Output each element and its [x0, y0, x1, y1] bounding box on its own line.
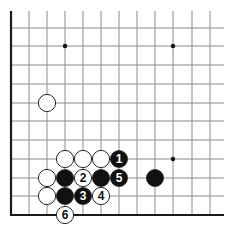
move-number: 6	[62, 208, 69, 222]
star-point-icon	[171, 44, 175, 48]
black-stone: 3	[74, 187, 91, 204]
black-stone	[56, 187, 73, 204]
move-number: 2	[80, 171, 87, 185]
white-stone	[38, 187, 55, 204]
white-stone: 2	[74, 169, 91, 186]
black-stone-icon	[56, 187, 73, 204]
white-stone	[92, 150, 109, 167]
white-stone	[74, 150, 91, 167]
white-stone: 4	[92, 187, 109, 204]
white-stone	[38, 94, 55, 111]
white-stone-icon	[38, 169, 55, 186]
black-stone-icon	[92, 169, 109, 186]
go-board: 125346	[0, 0, 233, 233]
move-number: 5	[116, 171, 123, 185]
white-stone-icon	[56, 150, 73, 167]
black-stone	[92, 169, 109, 186]
white-stone-icon	[92, 150, 109, 167]
white-stone-icon	[74, 150, 91, 167]
black-stone	[56, 169, 73, 186]
black-stone-icon	[56, 169, 73, 186]
white-stone	[56, 150, 73, 167]
black-stone-icon	[146, 169, 163, 186]
black-stone	[146, 169, 163, 186]
white-stone-icon	[38, 187, 55, 204]
white-stone-icon	[38, 94, 55, 111]
star-point-icon	[63, 44, 67, 48]
white-stone: 6	[56, 206, 73, 223]
black-stone: 1	[110, 150, 127, 167]
move-number: 3	[80, 189, 87, 203]
black-stone: 5	[110, 169, 127, 186]
move-number: 4	[98, 189, 105, 203]
white-stone	[38, 169, 55, 186]
star-point-icon	[171, 157, 175, 161]
move-number: 1	[116, 152, 123, 166]
